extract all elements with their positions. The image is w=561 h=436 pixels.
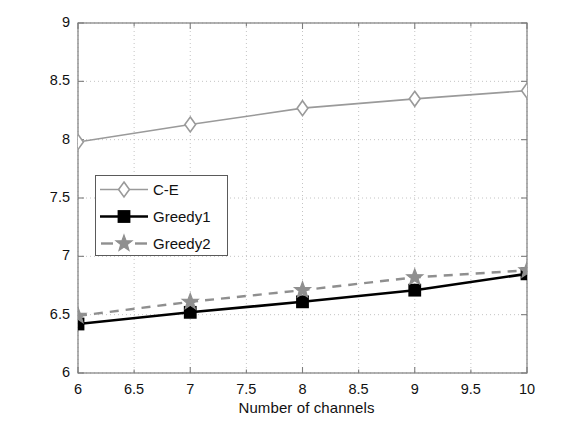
data-point-diamond (73, 135, 84, 150)
x-tick-label: 8.5 (329, 381, 389, 397)
y-tick-label: 9 (12, 14, 70, 30)
data-point-diamond (297, 101, 308, 116)
series-greedy1 (72, 268, 532, 329)
x-tick-label: 10 (497, 381, 557, 397)
data-point-square (409, 285, 420, 296)
y-tick-label: 7 (12, 247, 70, 263)
legend-marker-square-icon (96, 203, 152, 230)
legend-marker-star-icon (96, 230, 152, 257)
x-axis-title: Number of channels (26, 399, 561, 416)
y-tick-label: 6 (12, 364, 70, 380)
legend-label: Greedy2 (153, 235, 211, 252)
line-chart-plot (0, 0, 561, 436)
x-tick-label: 7.5 (216, 381, 276, 397)
x-tick-label: 7 (160, 381, 220, 397)
legend-item-greedy1: Greedy1 (96, 203, 229, 230)
data-point-star (407, 269, 423, 284)
x-tick-label: 9 (385, 381, 445, 397)
legend-label: C-E (153, 181, 179, 198)
data-point-star (295, 282, 311, 297)
legend-label: Greedy1 (153, 208, 211, 225)
legend-item-c-e: C-E (96, 176, 229, 203)
y-tick-label: 6.5 (12, 306, 70, 322)
legend-marker-diamond-icon (96, 176, 152, 203)
chart-legend: C-EGreedy1Greedy2 (95, 175, 228, 256)
data-point-diamond (119, 182, 130, 197)
data-point-diamond (185, 117, 196, 132)
legend-item-greedy2: Greedy2 (96, 230, 229, 257)
y-tick-label: 7.5 (12, 189, 70, 205)
x-tick-label: 6.5 (104, 381, 164, 397)
data-point-diamond (409, 91, 420, 106)
x-tick-label: 8 (273, 381, 333, 397)
x-tick-label: 9.5 (441, 381, 501, 397)
data-point-square (297, 296, 308, 307)
data-point-diamond (522, 83, 533, 98)
y-tick-label: 8.5 (12, 72, 70, 88)
chart-figure: 66.577.588.599.510 66.577.588.59 Number … (0, 0, 561, 436)
data-point-star (116, 235, 132, 250)
x-tick-label: 6 (48, 381, 108, 397)
data-point-square (118, 211, 129, 222)
y-tick-label: 8 (12, 131, 70, 147)
